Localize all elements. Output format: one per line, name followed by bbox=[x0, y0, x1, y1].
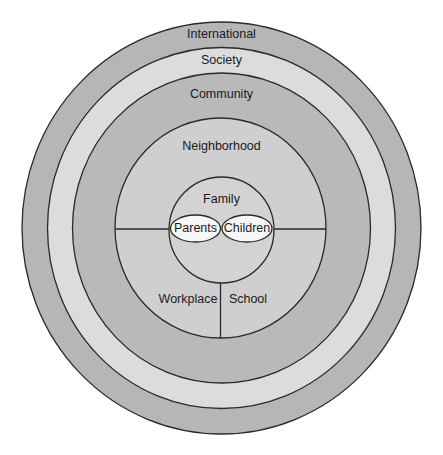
label-workplace: Workplace bbox=[159, 292, 218, 306]
label-international: International bbox=[187, 27, 256, 41]
label-community: Community bbox=[190, 87, 254, 101]
label-society: Society bbox=[201, 53, 243, 67]
label-children: Children bbox=[224, 221, 271, 235]
label-neighborhood: Neighborhood bbox=[182, 139, 261, 153]
label-family: Family bbox=[203, 192, 241, 206]
ecological-model-diagram: International Society Community Neighbor… bbox=[0, 0, 443, 455]
label-parents: Parents bbox=[174, 221, 217, 235]
label-school: School bbox=[229, 292, 267, 306]
